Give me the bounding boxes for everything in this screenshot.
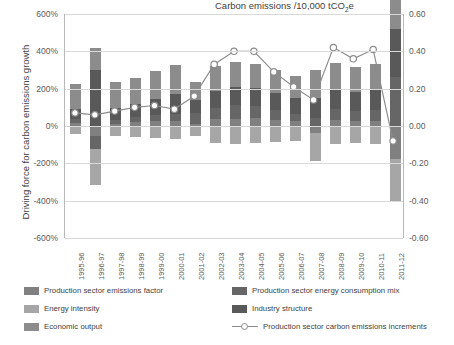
legend-item: Economic output xyxy=(24,322,102,331)
bar-segment xyxy=(170,65,181,94)
y-axis-left-tick: 600% xyxy=(0,9,58,19)
bar-segment xyxy=(130,104,141,117)
x-axis-label: 2005-06 xyxy=(277,252,286,280)
bar-segment xyxy=(330,89,341,110)
bar-segment xyxy=(290,76,301,98)
bar-segment xyxy=(210,119,221,126)
bar-segment xyxy=(330,63,341,89)
x-axis-label: 2006-07 xyxy=(297,252,306,280)
y-axis-right-tick: 0.20 xyxy=(409,84,454,94)
bar-segment xyxy=(150,126,161,138)
bar-segment xyxy=(370,126,381,144)
bar-segment xyxy=(70,109,81,119)
legend-item: Production sector energy consumption mix xyxy=(232,286,399,295)
bar-segment xyxy=(290,98,301,114)
bar-segment xyxy=(70,119,81,123)
x-axis-label: 2002-03 xyxy=(217,252,226,280)
y-axis-left-tick: 0% xyxy=(0,121,58,131)
legend-swatch xyxy=(24,323,39,331)
bar-segment xyxy=(110,108,121,119)
y-axis-left-tick: -200% xyxy=(0,158,58,168)
bar-segment xyxy=(130,78,141,104)
legend-swatch xyxy=(232,305,247,313)
bar-segment xyxy=(150,71,161,98)
legend-label: Economic output xyxy=(44,322,102,331)
bar-segment xyxy=(190,100,201,113)
y-axis-left-tick: -600% xyxy=(0,233,58,243)
bar-segment xyxy=(310,118,321,126)
bar-segment xyxy=(250,64,261,88)
bar-segment xyxy=(270,70,281,93)
legend-label: Production sector energy consumption mix xyxy=(252,286,399,295)
y-axis-right-tick: 0.40 xyxy=(409,46,454,56)
bar-segment xyxy=(130,117,141,122)
legend-line-icon xyxy=(232,322,258,331)
bar-segment xyxy=(110,120,121,124)
bar-segment xyxy=(250,126,261,143)
x-axis-label: 1999-00 xyxy=(157,252,166,280)
y-axis-right-tick: 0.60 xyxy=(409,9,454,19)
legend-label: Production sector emissions factor xyxy=(44,286,163,295)
bar-segment xyxy=(110,82,121,108)
legend-swatch xyxy=(24,287,39,295)
y-axis-right-tick: 0.00 xyxy=(409,121,454,131)
bar-segment xyxy=(390,29,401,78)
bar-segment xyxy=(130,126,141,137)
bar-segment xyxy=(90,70,101,126)
chart-legend: Production sector emissions factorProduc… xyxy=(24,286,432,338)
bar-segment xyxy=(350,111,361,121)
bar-segment xyxy=(170,114,181,121)
gridline xyxy=(65,51,403,52)
bar-segment xyxy=(390,77,401,126)
bar-segment xyxy=(370,90,381,110)
x-axis-label: 2008-09 xyxy=(337,252,346,280)
y-axis-right-tick: -0.60 xyxy=(409,233,454,243)
x-axis-label: 1995-96 xyxy=(77,252,86,280)
x-axis-label: 1997-98 xyxy=(117,252,126,280)
bar-segment xyxy=(350,92,361,111)
bar-segment xyxy=(290,114,301,121)
bar-segment xyxy=(230,62,241,87)
gridline xyxy=(65,238,403,239)
x-axis-label: 2009-10 xyxy=(357,252,366,280)
bar-segment xyxy=(110,126,121,136)
x-axis-labels: 1995-961996-971997-981998-991999-002000-… xyxy=(64,240,404,282)
bar-segment xyxy=(270,110,281,120)
bar-segment xyxy=(330,109,341,120)
bar-segment xyxy=(170,94,181,114)
gridline xyxy=(65,201,403,202)
x-axis-label: 1996-97 xyxy=(97,252,106,280)
legend-label: Industry structure xyxy=(252,304,312,313)
x-axis-label: 2003-04 xyxy=(237,252,246,280)
bar-segment xyxy=(90,136,101,149)
bar-segment xyxy=(70,126,81,134)
plot-area xyxy=(64,14,404,238)
bar-segment xyxy=(250,88,261,106)
bar-segment xyxy=(250,118,261,126)
chart-root: Driving force for carbon emissions growt… xyxy=(0,0,454,345)
legend-item: Production sector carbon emissions incre… xyxy=(232,322,427,331)
x-axis-label: 2011-12 xyxy=(397,253,406,280)
legend-swatch xyxy=(24,305,39,313)
bar-segment xyxy=(150,115,161,121)
bar-segment xyxy=(310,133,321,162)
bar-segment xyxy=(290,126,301,141)
bar-segment xyxy=(190,82,201,100)
bar-segment xyxy=(170,126,181,139)
bar-segment xyxy=(390,126,401,159)
x-axis-label: 2004-05 xyxy=(257,252,266,280)
bar-segment xyxy=(250,106,261,118)
bar-segment xyxy=(270,126,281,142)
bar-segment xyxy=(370,64,381,90)
legend-item: Energy intensity xyxy=(24,304,99,313)
legend-item: Industry structure xyxy=(232,304,312,313)
bar-segment xyxy=(230,126,241,144)
y-axis-left-tick: -400% xyxy=(0,196,58,206)
x-axis-label: 2010-11 xyxy=(377,253,386,280)
x-axis-label: 2000-01 xyxy=(177,252,186,280)
bar-segment xyxy=(150,99,161,116)
bar-segment xyxy=(210,91,221,109)
x-axis-label: 2007-08 xyxy=(317,252,326,280)
legend-label: Energy intensity xyxy=(44,304,99,313)
legend-label: Production sector carbon emissions incre… xyxy=(263,322,427,331)
